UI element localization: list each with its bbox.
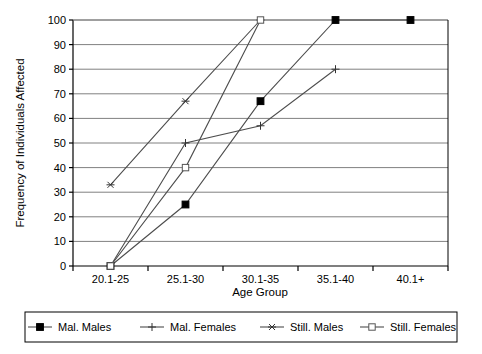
- legend-label: Still. Females: [390, 321, 457, 333]
- legend-label: Mal. Females: [170, 321, 237, 333]
- series-marker: [257, 17, 263, 23]
- y-tick-label: 80: [54, 63, 66, 75]
- chart-background: [0, 0, 482, 354]
- series-marker: [257, 98, 264, 105]
- line-chart: 0102030405060708090100 20.1-2525.1-3030.…: [0, 0, 482, 354]
- chart-canvas: 0102030405060708090100 20.1-2525.1-3030.…: [0, 0, 482, 354]
- y-tick-label: 100: [48, 14, 66, 26]
- x-tick-label: 35.1-40: [317, 273, 354, 285]
- y-tick-label: 40: [54, 162, 66, 174]
- x-tick-label: 40.1+: [397, 273, 425, 285]
- x-tick-label: 30.1-35: [242, 273, 279, 285]
- y-tick-label: 90: [54, 39, 66, 51]
- x-axis-title: Age Group: [232, 286, 288, 298]
- x-tick-label: 25.1-30: [167, 273, 204, 285]
- y-tick-label: 0: [60, 260, 66, 272]
- legend-marker-open-square: [369, 324, 375, 330]
- series-marker: [182, 164, 188, 170]
- series-marker: [107, 263, 113, 269]
- legend-label: Still. Males: [290, 321, 344, 333]
- y-axis-title: Frequency of Individuals Affected: [14, 58, 26, 227]
- y-tick-label: 50: [54, 137, 66, 149]
- series-marker: [407, 17, 414, 24]
- y-tick-label: 70: [54, 88, 66, 100]
- series-marker: [182, 201, 189, 208]
- x-tick-label: 20.1-25: [92, 273, 129, 285]
- series-marker: [332, 17, 339, 24]
- y-tick-label: 20: [54, 211, 66, 223]
- legend-marker-filled-square: [37, 324, 44, 331]
- y-tick-label: 30: [54, 186, 66, 198]
- legend-label: Mal. Males: [58, 321, 112, 333]
- y-tick-label: 10: [54, 235, 66, 247]
- y-tick-label: 60: [54, 112, 66, 124]
